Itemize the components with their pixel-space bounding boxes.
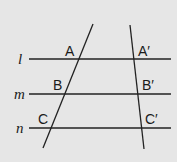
label-point-b: B (53, 77, 62, 93)
diagram-canvas: l m n A B C A′ B′ C′ (0, 0, 177, 162)
label-point-a-prime: A′ (138, 43, 150, 59)
label-point-a: A (65, 43, 75, 59)
label-line-n: n (16, 120, 24, 136)
label-point-c: C (38, 111, 48, 127)
label-point-c-prime: C′ (145, 111, 158, 127)
parallel-lines-diagram: l m n A B C A′ B′ C′ (0, 0, 177, 162)
label-line-l: l (18, 51, 22, 67)
label-point-b-prime: B′ (142, 77, 154, 93)
label-line-m: m (14, 86, 25, 102)
